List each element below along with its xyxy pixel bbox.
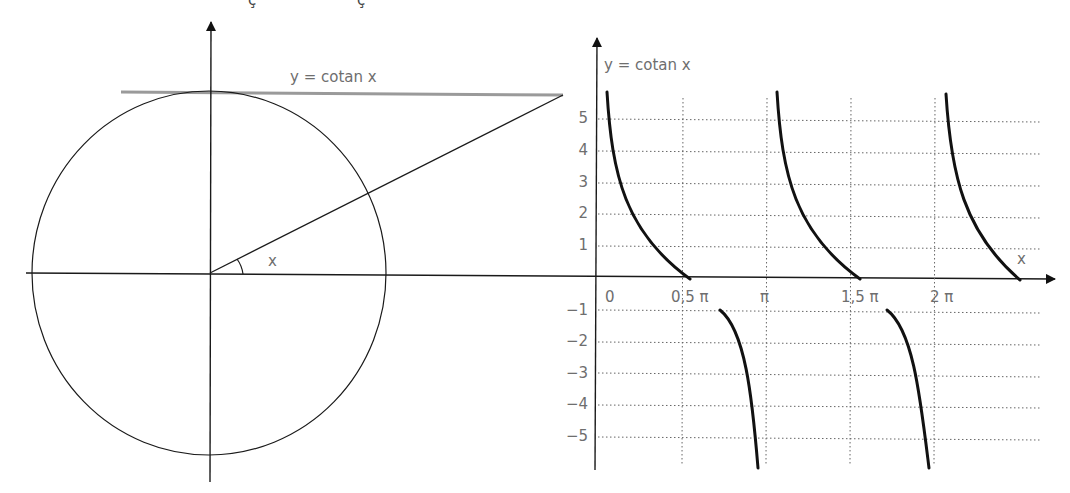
y-tick-minus-3: −3: [566, 366, 588, 381]
y-tick-minus-4: −4: [566, 397, 588, 412]
y-tick-minus-2: −2: [566, 334, 588, 349]
radius-ray: [210, 95, 563, 273]
cotan-curves: [607, 92, 1020, 468]
angle-label: x: [268, 254, 277, 269]
graph-grid: [598, 98, 1040, 465]
tangent-line-label: y = cotan x: [290, 70, 377, 85]
angle-arc: [237, 259, 243, 274]
header-fragment-right: ç: [357, 0, 365, 9]
y-tick-5: 5: [566, 111, 588, 126]
graph-title: y = cotan x: [604, 58, 691, 73]
y-tick-2: 2: [566, 206, 588, 221]
y-tick-minus-1: −1: [566, 303, 588, 318]
header-fragment-left: ç: [248, 0, 256, 9]
y-tick-minus-5: −5: [566, 429, 588, 444]
curve-branch-1-upper: [607, 92, 690, 279]
diagram-canvas: [0, 0, 1070, 493]
x-tick-2-pi: 2 π: [930, 290, 953, 305]
graph-y-axis: [595, 38, 597, 470]
graph-x-axis-label: x: [1017, 252, 1026, 267]
y-tick-3: 3: [566, 175, 588, 190]
curve-branch-1-lower: [720, 310, 758, 468]
x-axis: [26, 273, 1055, 279]
y-tick-1: 1: [566, 238, 588, 253]
x-tick-0-5-pi: 0,5 π: [671, 290, 709, 305]
x-tick-0: 0: [605, 290, 615, 305]
y-tick-4: 4: [566, 143, 588, 158]
unit-circle-figure: [26, 22, 1055, 482]
curve-branch-2-lower: [887, 310, 929, 468]
x-tick-1-5-pi: 1,5 π: [841, 290, 879, 305]
x-tick-pi: π: [760, 290, 769, 305]
